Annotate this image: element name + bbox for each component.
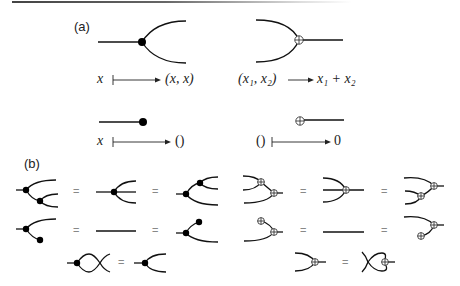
copy-assoc-right (176, 177, 218, 205)
copy-comm-left (67, 254, 110, 272)
add-comm-right (362, 252, 395, 272)
equals-sign: = (118, 256, 124, 268)
copy-domain: x (97, 71, 103, 87)
equals-sign: = (73, 224, 79, 236)
copy-arrow (113, 75, 161, 85)
zero-diagram (296, 117, 344, 125)
string-diagram-figure (0, 0, 460, 286)
equals-sign: = (300, 185, 306, 197)
equals-sign: = (152, 185, 158, 197)
copy-unit-right (176, 219, 218, 242)
copy-diagram (98, 21, 186, 63)
add-arrow (288, 78, 314, 83)
plus-node-icon (295, 36, 303, 44)
zero-codomain: 0 (334, 133, 341, 149)
copy-codomain: (x, x) (165, 71, 194, 87)
zero-arrow (272, 137, 331, 147)
zero-domain: () (256, 133, 265, 149)
equals-sign: = (73, 185, 79, 197)
equals-sign: = (342, 256, 348, 268)
add-comm-left (295, 253, 326, 271)
copy-comm-right (134, 254, 166, 272)
delete-diagram (99, 118, 147, 126)
add-unit-left (244, 218, 283, 241)
add-assoc-left (243, 176, 283, 203)
add-unit-right (404, 217, 444, 240)
add-assoc-middle (323, 178, 364, 202)
equals-sign: = (381, 224, 387, 236)
add-domain: (x₁, x₂) (238, 71, 277, 87)
copy-assoc-left (16, 180, 58, 207)
add-codomain: x₁ + x₂ (317, 71, 356, 87)
add-assoc-right (404, 178, 444, 204)
copy-unit-left (16, 219, 56, 243)
equals-sign: = (300, 224, 306, 236)
delete-domain: x (97, 133, 103, 149)
delete-codomain: () (175, 133, 184, 149)
delete-arrow (113, 137, 171, 147)
equals-sign: = (381, 185, 387, 197)
copy-assoc-middle (96, 181, 136, 203)
equals-sign: = (152, 224, 158, 236)
add-diagram (256, 20, 343, 62)
